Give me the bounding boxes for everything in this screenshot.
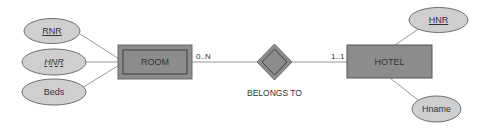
- relationship-belongs-to[interactable]: [257, 44, 292, 80]
- attribute-hname-label: Hname: [422, 104, 451, 114]
- attribute-hotel-hnr-label: HNR: [429, 15, 449, 25]
- attribute-rnr-label: RNR: [42, 26, 62, 36]
- entity-room-label: ROOM: [141, 57, 169, 67]
- er-diagram-canvas: [0, 0, 482, 128]
- connector-rnr-room: [80, 34, 124, 62]
- connector-hotel-hnr: [395, 28, 420, 45]
- cardinality-hotel: 1..1: [331, 52, 344, 61]
- entity-hotel-label: HOTEL: [374, 57, 404, 67]
- attribute-room-hnr-label: HNR: [44, 57, 64, 67]
- cardinality-room: 0..N: [196, 52, 211, 61]
- connector-hotel-hname: [390, 78, 418, 100]
- relationship-label: BELONGS TO: [247, 88, 302, 98]
- attribute-beds-label: Beds: [44, 87, 65, 97]
